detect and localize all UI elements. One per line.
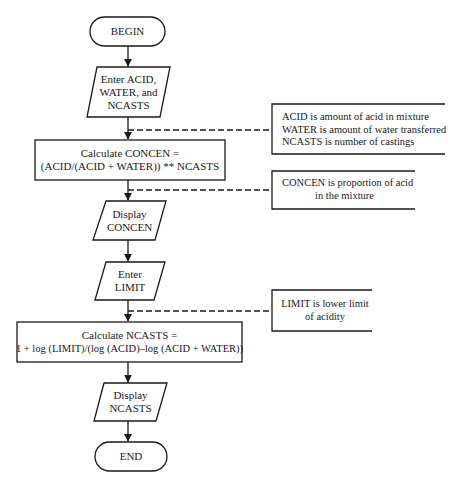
enter-limit-node: Enter LIMIT (95, 262, 165, 300)
note3-line-1: LIMIT is lower limit (280, 298, 370, 311)
calc1-line-2: (ACID/(ACID + WATER)) ** NCASTS (41, 160, 219, 173)
input-acid-water-node: Enter ACID, WATER, and NCASTS (87, 67, 170, 117)
annotation-variables: ACID is amount of acid in mixture WATER … (282, 111, 446, 149)
note3-line-2: of acidity (280, 311, 370, 324)
output1-line-1: Display (112, 208, 146, 221)
calc-ncasts-node: Calculate NCASTS = 1 + log (LIMIT)/(log … (17, 322, 242, 362)
note2-line-1: CONCEN is proportion of acid (282, 177, 407, 190)
annotation-limit: LIMIT is lower limit of acidity (280, 298, 370, 323)
begin-node: BEGIN (90, 17, 165, 46)
output2-line-2: NCASTS (109, 402, 151, 415)
note1-line-3: NCASTS is number of castings (282, 136, 446, 149)
note2-line-2: in the mixture (282, 190, 407, 203)
annotation-concen: CONCEN is proportion of acid in the mixt… (282, 177, 407, 202)
end-node: END (95, 442, 167, 471)
calc2-line-1: Calculate NCASTS = (82, 329, 177, 342)
end-label: END (120, 450, 143, 463)
flowchart-lines (0, 0, 458, 481)
calc2-line-2: 1 + log (LIMIT)/(log (ACID)–log (ACID + … (16, 342, 243, 355)
calc-concen-node: Calculate CONCEN = (ACID/(ACID + WATER))… (35, 140, 225, 180)
input1-line-1: Enter ACID, (101, 73, 157, 86)
input2-line-1: Enter (118, 268, 142, 281)
note1-line-1: ACID is amount of acid in mixture (282, 111, 446, 124)
input2-line-2: LIMIT (115, 281, 146, 294)
input1-line-2: WATER, and (99, 86, 157, 99)
input1-line-3: NCASTS (107, 99, 149, 112)
output1-line-2: CONCEN (107, 221, 152, 234)
begin-label: BEGIN (111, 25, 145, 38)
display-ncasts-node: Display NCASTS (94, 383, 167, 421)
output2-line-1: Display (113, 389, 147, 402)
note1-line-2: WATER is amount of water transferred (282, 124, 446, 137)
display-concen-node: Display CONCEN (93, 201, 166, 240)
calc1-line-1: Calculate CONCEN = (81, 147, 179, 160)
